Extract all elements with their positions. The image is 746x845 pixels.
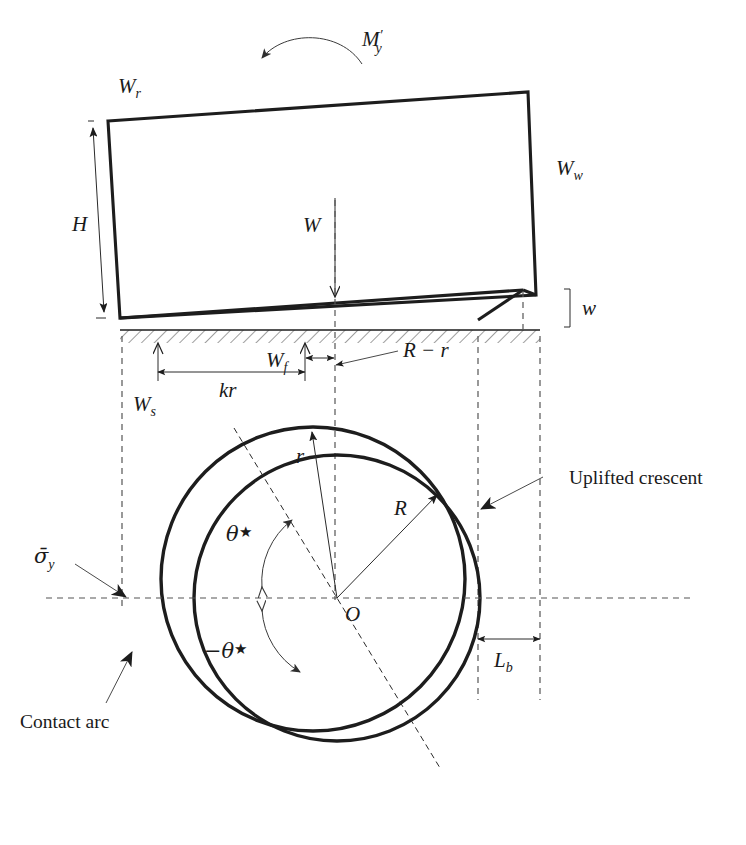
height-dimension-group xyxy=(88,121,106,318)
gap-label: w xyxy=(582,296,596,320)
soil-reaction-label: Ws xyxy=(133,392,157,419)
height-dimension-arrow xyxy=(93,128,104,312)
roof-load-label: Wr xyxy=(118,74,142,101)
radius-difference-leader xyxy=(336,351,398,365)
ground-hatching xyxy=(120,330,540,343)
stress-label: σ̄y xyxy=(34,544,55,572)
self-weight-label: W xyxy=(303,213,323,237)
engineering-diagram-figure: M′y Wr Ww H W w Ws xyxy=(0,0,746,845)
theta-positive-arc xyxy=(262,520,292,588)
outer-radius-label: R xyxy=(393,496,407,520)
theta-positive-label: θ★ xyxy=(226,522,252,546)
contact-arc-leader xyxy=(106,652,132,703)
gap-bracket xyxy=(564,289,570,327)
theta-negative-label: −θ★ xyxy=(204,639,247,663)
inner-radius-label: r xyxy=(296,444,305,468)
height-label: H xyxy=(71,212,89,236)
inner-circle-r xyxy=(161,427,465,731)
moment-label: M′y xyxy=(361,27,384,56)
wall-load-label: Ww xyxy=(556,156,584,183)
building-body-outline xyxy=(108,92,536,318)
theta-negative-arc xyxy=(262,610,300,672)
uplifted-crescent-leader xyxy=(481,477,543,509)
stress-leader xyxy=(75,564,126,597)
diagram-canvas: M′y Wr Ww H W w Ws xyxy=(0,0,746,845)
moment-arrow-group xyxy=(262,38,362,64)
outer-radius-arrow xyxy=(337,495,437,598)
center-point-label: O xyxy=(345,602,360,626)
moment-arc-arrow xyxy=(262,38,362,64)
foundation-reaction-label: Wf xyxy=(266,348,290,375)
bearing-length-label: Lb xyxy=(493,648,513,675)
contact-arc-label: Contact arc xyxy=(20,711,110,732)
uplifted-crescent-label: Uplifted crescent xyxy=(569,467,703,488)
lever-arm-label: kr xyxy=(219,378,237,402)
radius-difference-label: R − r xyxy=(402,338,449,362)
